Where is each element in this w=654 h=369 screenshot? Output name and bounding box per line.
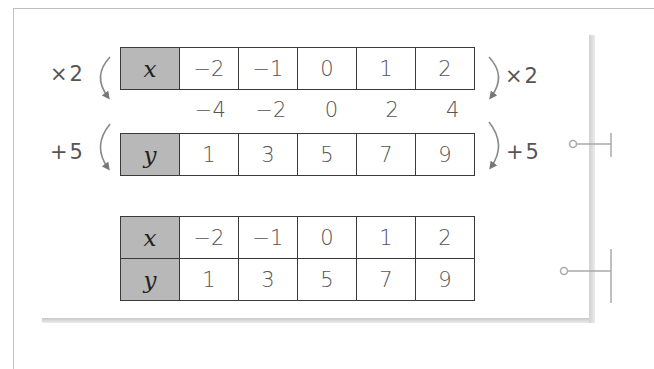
curved-arrow-icon bbox=[100, 57, 498, 168]
connector-marker-icon bbox=[561, 133, 612, 303]
